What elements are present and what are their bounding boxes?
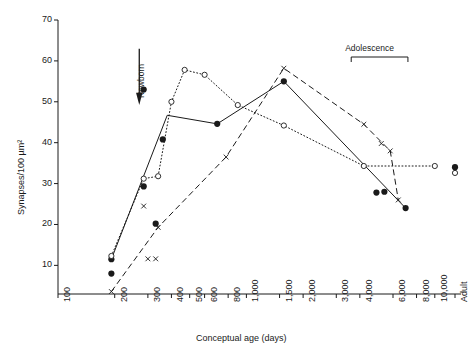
data-point-cross bbox=[281, 66, 286, 71]
data-point-cross bbox=[224, 155, 229, 160]
data-point-filled-circle bbox=[403, 205, 409, 211]
series-line-auditory-cortex bbox=[111, 81, 405, 259]
x-tick-label: 1,000 bbox=[250, 279, 260, 302]
data-point-filled-circle bbox=[160, 136, 166, 142]
data-point-open-circle bbox=[182, 67, 187, 72]
data-point-open-circle bbox=[141, 176, 146, 181]
x-axis-label: Conceptual age (days) bbox=[196, 333, 287, 343]
y-tick-label: 10 bbox=[28, 259, 52, 269]
y-tick-label: 50 bbox=[28, 96, 52, 106]
x-tick-label: 2,000 bbox=[307, 279, 317, 302]
x-tick-label: 10,000 bbox=[439, 274, 449, 302]
y-tick-label: 60 bbox=[28, 55, 52, 65]
data-point-open-circle bbox=[361, 163, 366, 168]
x-tick-label: 3,000 bbox=[340, 279, 350, 302]
data-point-cross bbox=[379, 141, 384, 146]
data-point-open-circle bbox=[235, 102, 240, 107]
x-tick-label: 300 bbox=[152, 287, 162, 302]
data-point-open-circle bbox=[452, 170, 457, 175]
data-point-filled-circle bbox=[108, 270, 114, 276]
data-point-cross bbox=[156, 225, 161, 230]
series-line-visual-cortex bbox=[111, 70, 434, 256]
y-tick-label: 20 bbox=[28, 218, 52, 228]
x-tick-label: 500 bbox=[194, 287, 204, 302]
data-point-filled-circle bbox=[214, 121, 220, 127]
x-tick-label: 100 bbox=[62, 287, 72, 302]
data-point-filled-circle bbox=[373, 189, 379, 195]
x-tick-label: 8,000 bbox=[421, 279, 431, 302]
data-point-filled-circle bbox=[153, 221, 159, 227]
data-point-filled-circle bbox=[281, 78, 287, 84]
x-tick-label: 6,000 bbox=[397, 279, 407, 302]
data-point-open-circle bbox=[169, 99, 174, 104]
data-point-cross bbox=[109, 289, 114, 294]
y-tick-label: 40 bbox=[28, 137, 52, 147]
x-tick-label: 4,000 bbox=[364, 279, 374, 302]
data-point-open-circle bbox=[156, 174, 161, 179]
x-tick-label: 600 bbox=[209, 287, 219, 302]
data-point-filled-circle bbox=[381, 189, 387, 195]
data-point-filled-circle bbox=[141, 183, 147, 189]
data-point-open-circle bbox=[432, 163, 437, 168]
x-tick-label: 200 bbox=[119, 287, 129, 302]
y-tick-label: 30 bbox=[28, 178, 52, 188]
data-point-open-circle bbox=[202, 72, 207, 77]
data-point-cross bbox=[141, 204, 146, 209]
data-point-cross bbox=[145, 256, 150, 261]
y-tick-label: 70 bbox=[28, 14, 52, 24]
x-tick-label: 1,500 bbox=[284, 279, 294, 302]
newborn-annotation-label: Newborn bbox=[136, 64, 146, 98]
y-axis-label: Synapses/100 µm² bbox=[16, 140, 26, 215]
data-point-open-circle bbox=[109, 253, 114, 258]
data-point-cross bbox=[153, 256, 158, 261]
x-tick-label: 800 bbox=[232, 287, 242, 302]
adolescence-bracket bbox=[351, 57, 408, 62]
adolescence-annotation-label: Adolescence bbox=[345, 43, 394, 53]
data-point-cross bbox=[361, 122, 366, 127]
data-point-open-circle bbox=[281, 123, 286, 128]
x-tick-label: Adult bbox=[459, 281, 469, 302]
data-point-filled-circle bbox=[452, 164, 458, 170]
x-tick-label: 400 bbox=[175, 287, 185, 302]
